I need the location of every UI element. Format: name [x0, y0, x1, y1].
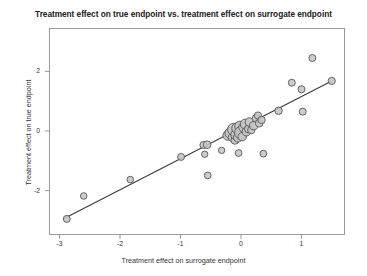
data-point-bubble — [178, 153, 185, 160]
data-point-bubble — [299, 108, 306, 115]
data-point-bubble — [260, 150, 267, 157]
x-axis-title: Treatment effect on surrogate endpoint — [0, 256, 367, 265]
x-axis-tick-label: -3 — [48, 240, 72, 247]
data-point-bubble — [63, 215, 70, 222]
data-point-bubble — [203, 141, 211, 149]
data-point-bubble — [258, 116, 265, 123]
data-point-bubble — [298, 86, 305, 93]
data-point-bubble — [309, 54, 316, 61]
data-point-bubble — [204, 172, 211, 179]
regression-line-group — [63, 81, 332, 219]
x-axis-tick-label: -1 — [169, 240, 193, 247]
x-axis-tick-label: 0 — [229, 240, 253, 247]
data-point-bubble — [127, 176, 134, 183]
x-axis-tick-label: 1 — [290, 240, 314, 247]
data-points-group — [63, 54, 335, 222]
regression-line — [63, 81, 332, 219]
data-point-bubble — [235, 150, 242, 157]
data-point-bubble — [80, 193, 87, 200]
plot-canvas — [0, 0, 367, 276]
data-point-bubble — [218, 147, 224, 153]
data-point-bubble — [202, 151, 208, 157]
data-point-bubble — [328, 77, 335, 84]
data-point-bubble — [288, 79, 295, 86]
y-axis-title: Treatment effect on true endpoint — [24, 33, 33, 233]
scatter-plot-figure: Treatment effect on true endpoint vs. tr… — [0, 0, 367, 276]
data-point-bubble — [275, 107, 282, 114]
x-axis-tick-label: -2 — [108, 240, 132, 247]
